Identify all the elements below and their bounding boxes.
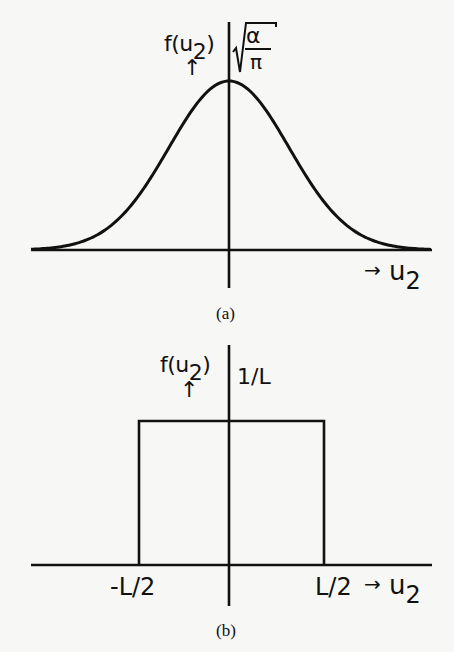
panel-a-y-arrow-icon: ↑ [183, 57, 201, 79]
panel-a-peak-denominator: π [250, 52, 262, 72]
panel-b-x-axis-label: → u2 [364, 572, 421, 607]
panel-b-caption: (b) [216, 622, 236, 639]
panel-a-x-axis-label: → u2 [364, 258, 421, 293]
rectangular-distribution [139, 421, 324, 565]
panel-b-y-arrow-icon: ↑ [180, 379, 198, 401]
figure-canvas [0, 0, 454, 652]
panel-a-peak-numerator: α [246, 25, 261, 47]
panel-b-left-tick-label: -L/2 [110, 575, 155, 599]
panel-a-plot [31, 22, 432, 288]
panel-b-plot [31, 345, 432, 606]
panel-a-caption: (a) [216, 305, 235, 322]
panel-b-right-tick-label: L/2 [315, 575, 352, 599]
panel-b-height-label: 1/L [237, 366, 271, 388]
gaussian-curve [31, 81, 431, 249]
